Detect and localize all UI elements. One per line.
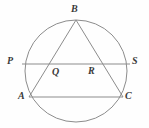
segment-BC (76, 20, 123, 97)
point-label-P: P (7, 56, 13, 66)
circumscribed-circle (25, 20, 127, 122)
point-label-A: A (18, 91, 25, 101)
point-label-S: S (132, 56, 138, 66)
geometry-figure: B P S Q R A C (0, 0, 149, 128)
geometry-canvas (0, 0, 149, 128)
point-label-R: R (88, 66, 95, 76)
point-label-C: C (125, 91, 132, 101)
segment-AB (29, 20, 76, 97)
point-label-B: B (71, 4, 78, 14)
point-label-Q: Q (52, 67, 59, 77)
